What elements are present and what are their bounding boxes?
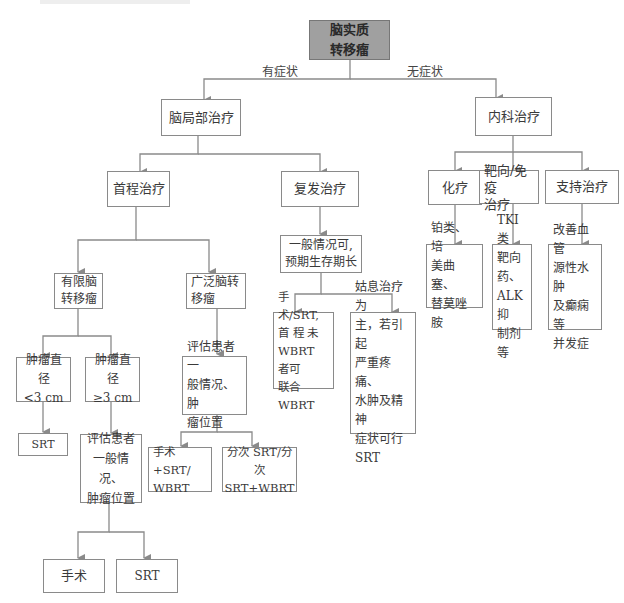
node-label: 肿瘤直径 ≥3 cm [90, 351, 135, 408]
node-label: 手术/SRT, 首 程 未 WBRT 者可 联合 WBRT [278, 288, 329, 414]
node-fractionated-srt: 分次 SRT/分 次 SRT+WBRT [222, 447, 297, 492]
node-label: 铂类、培 美曲塞、 替莫唑胺 [431, 219, 478, 333]
node-label: 评估患者 一般情况、 肿瘤位置 [85, 429, 137, 509]
node-label: 支持治疗 [556, 177, 608, 197]
node-assess-patient-extensive: 评估患者一 般情况、肿 瘤位置 [182, 356, 247, 415]
root-node-brain-parenchymal-metastasis: 脑实质 转移瘤 [309, 20, 390, 60]
node-label: 化疗 [442, 178, 468, 198]
node-label: 分次 SRT/分 次 SRT+WBRT [224, 443, 294, 497]
node-srt-large-tumor: SRT [116, 559, 178, 593]
node-label: 手术+SRT/ WBRT [153, 443, 207, 497]
node-chemo-drugs: 铂类、培 美曲塞、 替莫唑胺 [426, 244, 483, 308]
node-srt-small-tumor: SRT [18, 433, 68, 456]
node-good-condition: 一般情况可, 预期生存期长 [280, 235, 362, 273]
node-label: SRT [134, 566, 159, 586]
node-surgery: 手术 [43, 559, 105, 593]
node-assess-patient-ge3: 评估患者 一般情况、 肿瘤位置 [80, 434, 142, 503]
node-label: 一般情况可, 预期生存期长 [285, 237, 357, 271]
node-label: 内科治疗 [488, 107, 540, 127]
node-tumor-diameter-ge3: 肿瘤直径 ≥3 cm [85, 357, 140, 402]
node-limited-metastases: 有限脑 转移瘤 [54, 273, 103, 309]
node-label: 脑局部治疗 [169, 108, 234, 128]
node-tumor-diameter-lt3: 肿瘤直径 <3 cm [16, 357, 71, 402]
node-supportive-detail: 改善血管 源性水肿 及癫痫等 并发症 [548, 244, 602, 330]
node-recurrence-treatment: 复发治疗 [281, 171, 359, 207]
node-chemotherapy: 化疗 [428, 170, 482, 205]
node-label: 肿瘤直径 <3 cm [21, 351, 66, 408]
node-label: 改善血管 源性水肿 及癫痫等 并发症 [553, 221, 597, 354]
node-label: 有限脑 转移瘤 [61, 274, 97, 308]
node-supportive-treatment: 支持治疗 [545, 170, 619, 204]
edge-label-asymptomatic: 无症状 [407, 62, 443, 79]
node-label: 姑息治疗为 主，若引起 严重疼痛、 水肿及精神 症状可行 SRT [355, 278, 411, 468]
node-surgery-srt-wbrt: 手术+SRT/ WBRT [148, 447, 212, 492]
node-label: 手术 [61, 566, 87, 586]
node-label: 广泛脑转 移瘤 [191, 274, 239, 308]
node-label: TKI 类 靶向药、 ALK 抑 制剂等 [497, 211, 527, 363]
flowchart-canvas: 脑实质 转移瘤 有症状 无症状 脑局部治疗 内科治疗 首程治疗 复发治疗 化疗 … [0, 0, 624, 603]
node-label: 复发治疗 [294, 179, 346, 199]
node-first-line-treatment: 首程治疗 [107, 171, 170, 207]
node-medical-treatment: 内科治疗 [475, 97, 552, 136]
node-label: 靶向/免疫 治疗 [484, 162, 534, 213]
node-recurrence-palliative: 姑息治疗为 主，若引起 严重疼痛、 水肿及精神 症状可行 SRT [350, 312, 416, 434]
node-label: SRT [32, 435, 55, 455]
node-extensive-metastases: 广泛脑转 移瘤 [186, 273, 246, 309]
node-targeted-drugs: TKI 类 靶向药、 ALK 抑 制剂等 [492, 244, 532, 330]
node-label: 评估患者一 般情况、肿 瘤位置 [187, 338, 242, 433]
edge-label-symptomatic: 有症状 [262, 62, 298, 79]
node-recurrence-surgery-srt: 手术/SRT, 首 程 未 WBRT 者可 联合 WBRT [273, 312, 334, 389]
node-local-brain-treatment: 脑局部治疗 [161, 99, 241, 136]
node-targeted-immunotherapy: 靶向/免疫 治疗 [479, 170, 539, 204]
node-label: 首程治疗 [113, 179, 165, 199]
root-label: 脑实质 转移瘤 [330, 20, 369, 60]
